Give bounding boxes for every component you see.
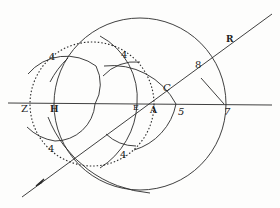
label-4-bottom-left: 4	[48, 143, 54, 154]
oblique-ray	[22, 14, 272, 197]
arc-center-through-4s	[100, 36, 137, 168]
small-circle-arc	[104, 66, 176, 150]
label-4-top-right: 4	[121, 49, 127, 60]
arc-left-lower	[27, 104, 95, 141]
label-r: R	[226, 34, 234, 44]
arrow-head-icon	[36, 179, 44, 186]
label-e: E	[133, 103, 139, 112]
label-c: C	[163, 82, 171, 93]
label-8: 8	[195, 59, 201, 70]
label-z: Z	[21, 103, 28, 114]
label-5: 5	[178, 106, 184, 117]
label-4-bottom-right: 4	[120, 149, 126, 160]
arc-left-bottom-sweep	[48, 117, 150, 193]
segment-8-to-7	[201, 78, 224, 104]
diagram-canvas: Z H E A C 5 7 8 R 4 4 4 4	[0, 0, 280, 208]
label-7: 7	[224, 106, 231, 117]
label-4-top-left: 4	[49, 51, 55, 62]
horizontal-axis-line	[8, 103, 272, 105]
label-a: A	[149, 105, 158, 115]
geometry-figure: Z H E A C 5 7 8 R 4 4 4 4	[0, 0, 280, 208]
arc-right-lower	[106, 134, 136, 146]
label-h: H	[50, 104, 59, 114]
